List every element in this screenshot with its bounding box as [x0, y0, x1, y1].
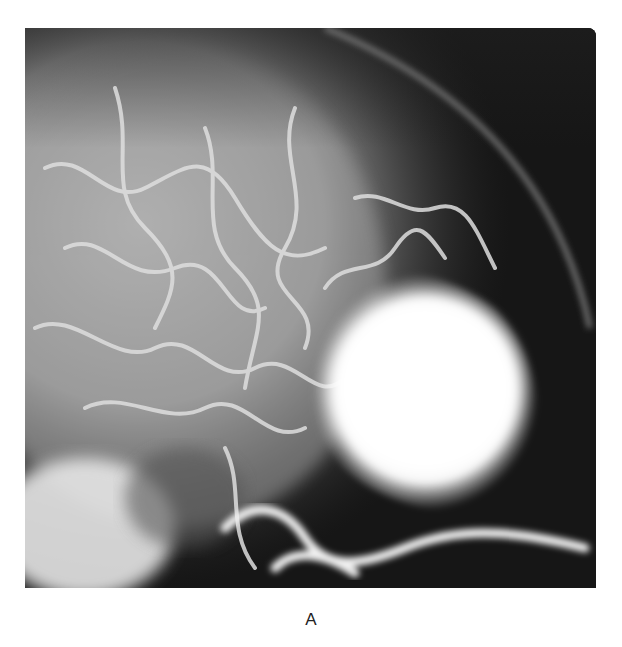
angiogram-graphic: [25, 28, 596, 588]
angiogram-image: [25, 28, 596, 588]
figure-label: A: [0, 610, 622, 630]
